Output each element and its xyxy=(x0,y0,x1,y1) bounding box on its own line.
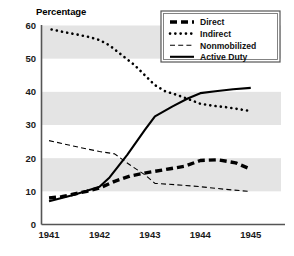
x-tick-label-1942: 1942 xyxy=(89,229,110,240)
y-tick-label-50: 50 xyxy=(25,53,36,64)
ytick-group: 0102030405060 xyxy=(25,20,36,230)
legend-label-nonmobilized: Nonmobilized xyxy=(200,41,256,51)
legend-label-indirect: Indirect xyxy=(200,29,231,39)
xtick-group: 19411942194319441945 xyxy=(38,229,262,240)
y-tick-label-20: 20 xyxy=(25,153,36,164)
x-tick-label-1943: 1943 xyxy=(139,229,160,240)
y-tick-label-0: 0 xyxy=(31,219,36,230)
chart-container: Percentage 0102030405060 194119421943194… xyxy=(0,0,294,256)
x-tick-label-1944: 1944 xyxy=(190,229,212,240)
y-tick-label-60: 60 xyxy=(25,20,36,31)
band-1 xyxy=(42,92,282,125)
x-tick-label-1945: 1945 xyxy=(240,229,262,240)
band-0 xyxy=(42,158,282,191)
y-tick-label-10: 10 xyxy=(25,186,36,197)
legend-label-active-duty: Active Duty xyxy=(200,52,247,62)
y-axis-title: Percentage xyxy=(36,6,86,17)
legend-label-direct: Direct xyxy=(200,17,224,27)
x-tick-label-1941: 1941 xyxy=(38,229,60,240)
y-tick-label-30: 30 xyxy=(25,119,36,130)
line-chart-plot: 0102030405060 19411942194319441945 Direc… xyxy=(0,0,294,256)
y-tick-label-40: 40 xyxy=(25,86,36,97)
legend-group: DirectIndirectNonmobilizedActive Duty xyxy=(161,11,280,62)
